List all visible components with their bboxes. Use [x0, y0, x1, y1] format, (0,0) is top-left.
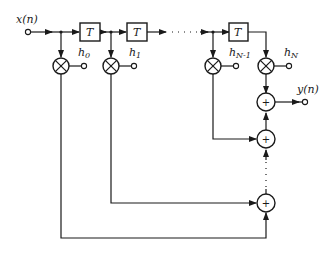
- coef-label-h1: h1: [129, 46, 141, 60]
- feed-hn-1: [213, 74, 256, 139]
- delay-block-n: T: [229, 23, 248, 41]
- coef-port-h1: [131, 63, 136, 68]
- adder-2: +: [257, 130, 275, 148]
- output-label: y(n): [296, 83, 319, 96]
- multiplier-0: h0: [53, 46, 90, 74]
- feed-h0: [61, 74, 266, 238]
- delay-block-2: T: [127, 23, 147, 41]
- input-label: x(n): [16, 13, 38, 26]
- multiplier-n: hN: [258, 46, 299, 74]
- adder-last: +: [257, 194, 275, 212]
- plus-icon: +: [262, 198, 270, 209]
- input-node: x(n): [16, 13, 38, 35]
- coef-port-h0: [81, 63, 86, 68]
- input-port: [25, 29, 30, 34]
- coef-label-hn-1: hN-1: [229, 46, 251, 60]
- output-port: [302, 99, 307, 104]
- plus-icon: +: [262, 97, 270, 108]
- multiplier-n-1: hN-1: [205, 46, 251, 74]
- output-node: y(n): [296, 83, 319, 105]
- coef-label-hn: hN: [284, 46, 299, 60]
- plus-icon: +: [262, 134, 270, 145]
- adder-output: +: [257, 93, 275, 111]
- coef-port-hn: [286, 63, 291, 68]
- coef-label-h0: h0: [78, 46, 90, 60]
- fir-filter-diagram: x(n) T T T: [0, 0, 332, 256]
- delay-block-1: T: [80, 23, 100, 41]
- multiplier-1: h1: [103, 46, 141, 74]
- coef-port-hn-1: [233, 63, 238, 68]
